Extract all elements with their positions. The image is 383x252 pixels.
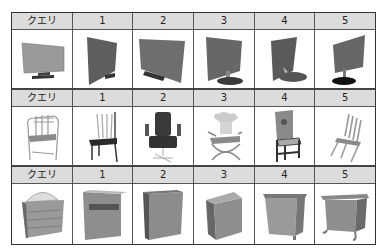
header-rank-1: 1 bbox=[72, 90, 133, 106]
retrieval-results-table: クエリ 1 2 3 4 5 bbox=[11, 12, 376, 245]
dresser-result-3-image bbox=[193, 184, 254, 244]
monitor-icon bbox=[257, 31, 313, 87]
monitor-result-4-image bbox=[254, 30, 315, 88]
chair-result-1-image bbox=[72, 107, 133, 165]
header-row: クエリ 1 2 3 4 5 bbox=[12, 90, 375, 107]
monitor-icon bbox=[135, 31, 191, 87]
header-rank-3: 3 bbox=[193, 13, 254, 29]
header-rank-1: 1 bbox=[72, 167, 133, 183]
header-query: クエリ bbox=[12, 167, 72, 183]
header-rank-4: 4 bbox=[254, 167, 315, 183]
monitor-icon bbox=[317, 31, 373, 87]
header-rank-3: 3 bbox=[193, 90, 254, 106]
header-rank-2: 2 bbox=[132, 167, 193, 183]
chair-icon bbox=[14, 108, 70, 164]
dresser-result-5-image bbox=[314, 184, 375, 244]
image-row bbox=[12, 184, 375, 244]
dresser-results-block: クエリ 1 2 3 4 5 bbox=[12, 165, 375, 244]
header-row: クエリ 1 2 3 4 5 bbox=[12, 13, 375, 30]
dresser-result-4-image bbox=[254, 184, 315, 244]
monitor-result-5-image bbox=[314, 30, 375, 88]
header-rank-4: 4 bbox=[254, 90, 315, 106]
chair-icon bbox=[196, 108, 252, 164]
dresser-icon bbox=[135, 186, 191, 242]
image-row bbox=[12, 30, 375, 88]
chair-results-block: クエリ 1 2 3 4 5 bbox=[12, 88, 375, 165]
monitor-icon bbox=[14, 31, 70, 87]
dresser-icon bbox=[317, 186, 373, 242]
monitor-result-1-image bbox=[72, 30, 133, 88]
monitor-result-2-image bbox=[132, 30, 193, 88]
header-rank-2: 2 bbox=[132, 90, 193, 106]
dresser-icon bbox=[257, 186, 313, 242]
chair-icon bbox=[135, 108, 191, 164]
header-rank-5: 5 bbox=[314, 90, 375, 106]
chair-result-4-image bbox=[254, 107, 315, 165]
dresser-result-1-image bbox=[72, 184, 133, 244]
header-query: クエリ bbox=[12, 90, 72, 106]
header-rank-4: 4 bbox=[254, 13, 315, 29]
header-rank-2: 2 bbox=[132, 13, 193, 29]
header-rank-5: 5 bbox=[314, 167, 375, 183]
chair-result-3-image bbox=[193, 107, 254, 165]
monitor-result-3-image bbox=[193, 30, 254, 88]
chair-query-image bbox=[12, 107, 72, 165]
dresser-query-image bbox=[12, 184, 72, 244]
dresser-icon bbox=[196, 186, 252, 242]
chair-icon bbox=[257, 108, 313, 164]
dresser-icon bbox=[14, 186, 70, 242]
chair-icon bbox=[317, 108, 373, 164]
header-query: クエリ bbox=[12, 13, 72, 29]
header-rank-1: 1 bbox=[72, 13, 133, 29]
header-rank-5: 5 bbox=[314, 13, 375, 29]
header-row: クエリ 1 2 3 4 5 bbox=[12, 167, 375, 184]
monitor-icon bbox=[75, 31, 131, 87]
header-rank-3: 3 bbox=[193, 167, 254, 183]
chair-result-2-image bbox=[132, 107, 193, 165]
image-row bbox=[12, 107, 375, 165]
monitor-icon bbox=[196, 31, 252, 87]
chair-icon bbox=[75, 108, 131, 164]
monitor-results-block: クエリ 1 2 3 4 5 bbox=[12, 13, 375, 88]
monitor-query-image bbox=[12, 30, 72, 88]
chair-result-5-image bbox=[314, 107, 375, 165]
dresser-icon bbox=[75, 186, 131, 242]
dresser-result-2-image bbox=[132, 184, 193, 244]
